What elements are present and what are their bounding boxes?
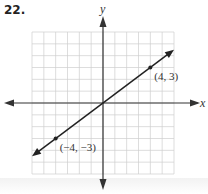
point-label: (4, 3)	[154, 70, 178, 83]
data-point	[148, 66, 152, 70]
point-label: (−4, −3)	[60, 141, 97, 154]
x-axis-right-arrow-icon	[190, 100, 200, 107]
x-axis-label: x	[199, 96, 206, 110]
line-arrowhead-start-icon	[32, 148, 41, 156]
data-point	[54, 137, 58, 141]
x-axis-left-arrow-icon	[4, 100, 14, 107]
line-arrowhead-end-icon	[165, 50, 174, 58]
coordinate-plane: (4, 3)(−4, −3) x y	[0, 0, 208, 194]
y-axis-label: y	[99, 2, 106, 16]
y-axis-down-arrow-icon	[100, 179, 107, 190]
y-axis-up-arrow-icon	[100, 16, 107, 27]
plotted-points: (4, 3)(−4, −3)	[54, 66, 179, 154]
